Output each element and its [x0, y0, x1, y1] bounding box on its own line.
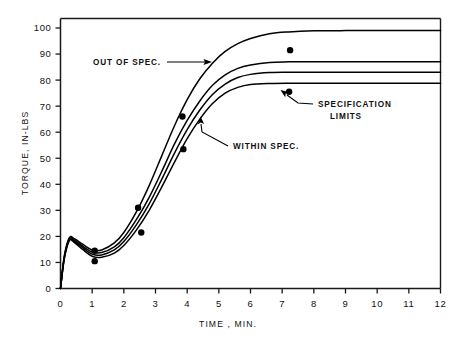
- within-spec-leader-line: [201, 124, 228, 146]
- y-tick-label: 40: [40, 179, 52, 190]
- y-tick-label: 100: [34, 22, 52, 33]
- torque-vs-time-chart: 0102030405060708090100 0123456789101112 …: [0, 0, 456, 341]
- data-point: [138, 229, 144, 235]
- y-axis-title: TORQUE, IN-LBS: [20, 111, 30, 195]
- y-tick-label: 0: [46, 283, 52, 294]
- data-point: [92, 248, 98, 254]
- y-tick-label: 90: [40, 48, 52, 59]
- specification-limits-leader-line: [287, 95, 313, 104]
- data-point: [180, 146, 186, 152]
- annotation-within-spec: WITHIN SPEC.: [233, 142, 299, 151]
- curve-group: [61, 31, 441, 289]
- x-tick-label: 7: [279, 298, 285, 309]
- annotation-out-of-spec: OUT OF SPEC.: [93, 58, 161, 67]
- x-tick-label: 4: [184, 298, 190, 309]
- curve-line: [61, 31, 441, 289]
- x-tick-label: 0: [58, 298, 64, 309]
- data-point: [287, 47, 293, 53]
- y-tick-label: 20: [40, 231, 52, 242]
- x-axis-ticks: 0123456789101112: [58, 289, 447, 309]
- data-point: [179, 113, 185, 119]
- x-tick-label: 10: [371, 298, 383, 309]
- y-tick-label: 50: [40, 153, 52, 164]
- data-point-group: [92, 47, 294, 264]
- x-tick-label: 9: [343, 298, 349, 309]
- curve-line: [61, 62, 441, 289]
- x-tick-label: 3: [153, 298, 159, 309]
- annotation-specification-limits-line2: LIMITS: [330, 112, 362, 121]
- x-tick-label: 5: [216, 298, 222, 309]
- x-tick-label: 6: [248, 298, 254, 309]
- x-tick-label: 1: [89, 298, 95, 309]
- annotation-specification-limits-line1: SPECIFICATION: [318, 100, 392, 109]
- x-tick-label: 11: [403, 298, 414, 309]
- data-point: [92, 258, 98, 264]
- y-tick-label: 80: [40, 75, 52, 86]
- y-tick-label: 60: [40, 127, 52, 138]
- y-tick-label: 10: [40, 257, 52, 268]
- x-tick-label: 8: [311, 298, 317, 309]
- y-tick-label: 70: [40, 101, 52, 112]
- chart-canvas: 0102030405060708090100 0123456789101112 …: [0, 0, 456, 341]
- curve-line: [61, 83, 441, 288]
- x-axis-title: TIME , MIN.: [199, 319, 257, 329]
- x-tick-label: 12: [435, 298, 447, 309]
- y-tick-label: 30: [40, 205, 52, 216]
- y-axis-ticks: 0102030405060708090100: [34, 22, 61, 294]
- x-tick-label: 2: [121, 298, 127, 309]
- data-point: [135, 205, 141, 211]
